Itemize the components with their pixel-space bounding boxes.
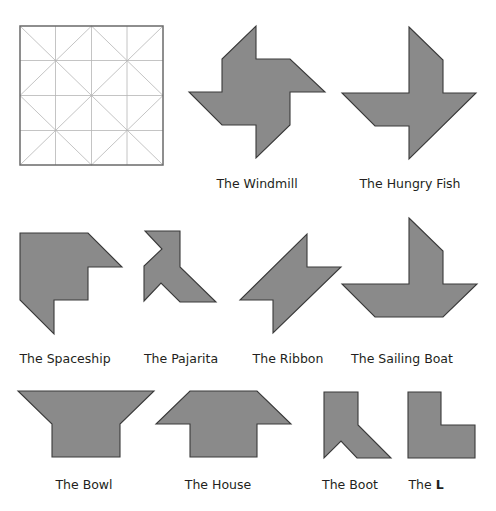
ribbon-shape	[240, 234, 341, 333]
l-label: The L	[408, 477, 443, 492]
l-label-bold: L	[436, 477, 444, 492]
sailing-boat-label: The Sailing Boat	[351, 351, 453, 366]
house-shape	[156, 391, 291, 457]
windmill-label: The Windmill	[216, 176, 297, 191]
l-shape	[408, 392, 475, 458]
bowl-label: The Bowl	[55, 477, 112, 492]
spaceship-shape	[20, 233, 122, 334]
hungry-fish-shape	[342, 27, 476, 159]
house-label: The House	[185, 477, 251, 492]
sailing-boat-shape	[342, 218, 477, 317]
tangram-grid	[20, 26, 163, 165]
pajarita-label: The Pajarita	[144, 351, 218, 366]
l-label-prefix: The	[408, 477, 435, 492]
boot-label: The Boot	[322, 477, 378, 492]
hungry-fish-label: The Hungry Fish	[359, 176, 460, 191]
windmill-shape	[189, 26, 325, 158]
bowl-shape	[18, 391, 154, 457]
pajarita-shape	[144, 231, 216, 302]
boot-shape	[324, 392, 391, 458]
spaceship-label: The Spaceship	[19, 351, 110, 366]
ribbon-label: The Ribbon	[253, 351, 324, 366]
